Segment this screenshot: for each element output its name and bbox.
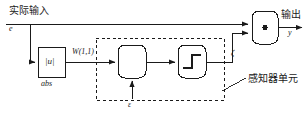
input-branch-line [30,24,35,62]
step-function-glyph [183,55,201,68]
zeta-symbol-label: ζ [231,50,234,58]
perceptron-unit-leader-line [222,78,246,91]
weight-label: W(1,1) [72,48,94,56]
product-dot-icon [262,25,267,30]
abs-block-label: |u| [45,57,54,66]
output-symbol-label: y [288,29,292,37]
output-label: 输出 [281,10,301,20]
sum-block-shape [118,45,146,78]
input-symbol-label: e [9,25,13,33]
abs-block-caption: abs [41,80,52,88]
bias-symbol-label: ε [128,101,131,109]
perceptron-block-diagram: 实际输入 e 输出 y |u| abs W(1,1) ε ζ 感知器单元 [0,0,308,113]
perceptron-unit-label: 感知器单元 [248,74,298,84]
zeta-to-product-line [206,33,248,62]
actual-input-label: 实际输入 [9,6,49,16]
